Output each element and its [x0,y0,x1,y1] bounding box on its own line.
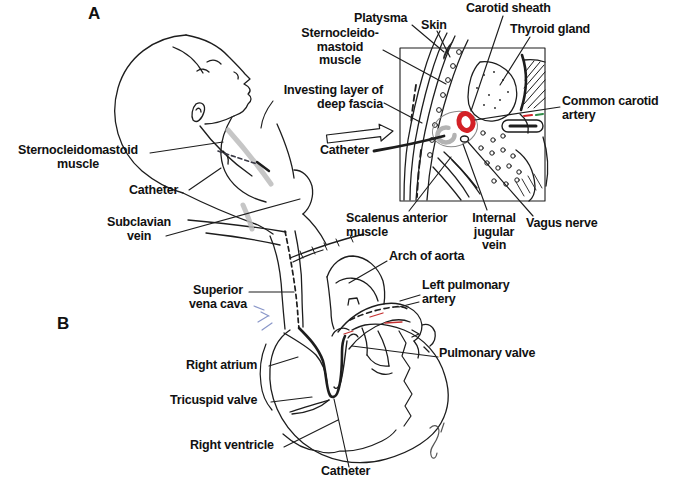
svc-left-wall [270,236,285,329]
label-subclavian-vein: Subclavian vein [96,216,182,243]
label-sternocleidomastoid-left: Sternocleidomastoid muscle [8,144,148,171]
label-catheter-inset: Catheter [320,144,369,158]
heart-outline [270,324,448,462]
label-thyroid-gland: Thyroid gland [510,23,590,37]
aortic-root-2 [378,331,389,366]
label-sternocleidomastoid-right: Sternocleido- mastoid muscle [290,27,390,68]
clavicle-line-2 [206,233,280,245]
internal-jugular-ring [438,128,455,143]
label-carotid-sheath: Carotid sheath [466,2,551,16]
red-marks-pa [344,313,402,334]
inset-pointer-arrow-icon [327,124,394,143]
catheter-dashed-svc [285,231,299,328]
panel-a-letter: A [88,4,100,24]
label-arch-of-aorta: Arch of aorta [389,250,464,264]
hairline [173,47,203,73]
label-platysma: Platysma [354,12,407,26]
leader-right-atrium [269,357,298,366]
far-neck-line [277,124,294,178]
aortic-root-3 [367,355,389,366]
common-carotid-ring [457,112,475,132]
leader-catheter-heart [334,399,349,467]
label-left-pulmonary-artery: Left pulmonary artery [422,279,509,306]
pulmonary-valve-cusp-2 [348,334,358,338]
ligamentum-bump [348,298,359,305]
rv-inner-bottom [283,430,396,453]
red-tick [524,115,532,116]
neck-cross-section-inset [374,31,548,201]
ascending-aorta [327,277,334,329]
label-tricuspid-valve: Tricuspid valve [170,394,257,408]
leader-arch-aorta [349,261,387,283]
svc-right-wall [295,231,303,327]
leader-tricuspid [271,397,312,402]
anatomy-figure: A B Sternocleidomastoid muscle Catheter … [0,0,677,492]
shoulder-deltoid [294,170,313,214]
label-internal-jugular: Internal jugular vein [463,212,525,253]
leader-lpa-1 [400,295,420,301]
label-catheter-neck: Catheter [129,184,178,198]
label-right-atrium: Right atrium [186,359,257,373]
green-tick [536,114,543,115]
label-superior-vena-cava: Superior vena cava [183,284,253,311]
label-catheter-heart: Catheter [321,465,370,479]
blue-marks-svc [254,306,272,330]
heart-figure [254,231,448,463]
chordae-line [372,369,392,374]
eyebrow [207,60,221,64]
ear-inner [196,108,201,112]
septum-zigzag [399,331,412,426]
label-vagus-nerve: Vagus nerve [526,217,597,231]
label-investing-fascia: Investing layer of deep fascia [270,84,383,111]
vagus-nerve-circle [461,136,469,142]
closed-eye [197,69,209,72]
panel-b-letter: B [57,314,69,334]
label-right-ventricle: Right ventricle [190,439,274,453]
nostril [234,72,238,79]
label-scalenus-anterior: Scalenus anterior muscle [346,212,448,239]
leader-right-ventricle [284,420,338,447]
label-pulmonary-valve: Pulmonary valve [439,347,535,361]
label-skin: Skin [421,19,447,33]
leader-scm-left [150,142,223,153]
label-common-carotid: Common carotid artery [562,95,659,122]
ear [192,103,205,121]
chest-arm-line [303,214,326,244]
figure-artwork [0,0,677,492]
leader-catheter-neck [189,168,221,190]
